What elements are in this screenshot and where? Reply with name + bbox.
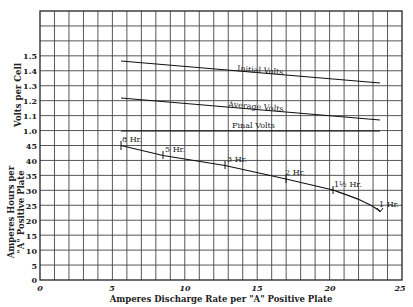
y-tick-30: 30 [26, 186, 38, 196]
capacity-point-labels: 8 Hr. 5 Hr. 3 Hr. 2 Hr. 1½ Hr. 1 Hr. [122, 135, 399, 209]
label-8hr: 8 Hr. [122, 135, 142, 144]
label-5hr: 5 Hr. [165, 145, 185, 154]
y-axis-label-volts: Volts per Cell [13, 62, 23, 128]
x-tick-5: 5 [109, 283, 115, 293]
y-tick-15: 15 [26, 231, 37, 241]
y-tick-1.2: 1.2 [23, 96, 37, 106]
grid [40, 11, 402, 280]
average-volts-label: Average Volts [227, 100, 284, 114]
x-tick-25: 25 [393, 283, 406, 293]
y-axis-volts-ticks: 1.5 1.4 1.3 1.2 1.1 1.0 [23, 51, 37, 136]
label-2hr: 2 Hr. [285, 168, 305, 177]
label-1hr: 1 Hr. [379, 200, 399, 209]
y-tick-5: 5 [31, 261, 37, 271]
initial-volts-label: Initial Volts [237, 64, 284, 77]
y-tick-20: 20 [26, 216, 38, 226]
y-tick-35: 35 [26, 171, 37, 181]
x-axis-label: Amperes Discharge Rate per "A" Positive … [109, 294, 333, 304]
x-tick-0: 0 [37, 283, 43, 293]
label-3hr: 3 Hr. [227, 155, 247, 164]
y-axis-label-ah-line1: Amperes Hours per [6, 165, 16, 259]
discharge-chart: 1.5 1.4 1.3 1.2 1.1 1.0 45 40 35 30 25 2… [0, 0, 413, 307]
y-tick-1.3: 1.3 [23, 81, 37, 91]
y-axis-label-ah-line2: "A" Positive Plate [16, 170, 26, 254]
y-tick-1.5: 1.5 [23, 51, 37, 61]
y-tick-25: 25 [26, 201, 37, 211]
x-axis-ticks: 0 5 10 15 20 25 [37, 283, 406, 293]
y-tick-10: 10 [26, 246, 38, 256]
y-tick-1.1: 1.1 [23, 111, 37, 121]
y-tick-1.0: 1.0 [23, 126, 37, 136]
x-tick-20: 20 [323, 283, 336, 293]
label-1-5hr: 1½ Hr. [334, 180, 362, 189]
y-tick-45: 45 [26, 141, 37, 151]
capacity-curve [121, 146, 380, 212]
y-tick-40: 40 [26, 156, 38, 166]
x-tick-15: 15 [251, 283, 263, 293]
final-volts-label: Final Volts [232, 121, 275, 130]
y-tick-1.4: 1.4 [23, 66, 37, 76]
y-axis-ah-ticks: 45 40 35 30 25 20 15 10 5 0 [26, 141, 38, 285]
x-tick-10: 10 [179, 283, 191, 293]
